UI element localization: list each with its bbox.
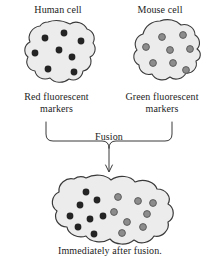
mouse-cell-label: Mouse cell [112, 4, 208, 16]
mouse-cell-group [134, 20, 200, 80]
human-cell-group [25, 21, 95, 83]
green-fluorescent-markers-label: Green fluorescent markers [108, 91, 216, 114]
red-fluorescent-markers-label: Red fluorescent markers [4, 91, 109, 114]
fused-cell-group [52, 175, 173, 244]
fusion-label: Fusion [74, 131, 144, 143]
fusion-connector [46, 122, 172, 172]
human-cell-label: Human cell [10, 4, 106, 16]
after-fusion-label: Immediately after fusion. [10, 245, 210, 257]
cell-fusion-diagram: Human cell Mouse cell Red fluorescent ma… [0, 0, 219, 261]
